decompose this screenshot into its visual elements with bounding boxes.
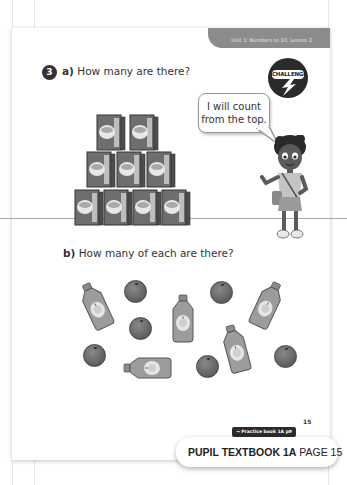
orange (83, 344, 106, 367)
orange (196, 355, 219, 378)
practice-book-link[interactable]: → Practice book 1A p9 (232, 427, 296, 437)
page-number: 15 (303, 418, 311, 425)
bottles-and-oranges (0, 0, 347, 400)
textbook-page-tab: PUPIL TEXTBOOK 1A PAGE 15 (176, 437, 338, 467)
page-label: PAGE 15 (299, 446, 342, 458)
textbook-label: PUPIL TEXTBOOK 1A (188, 446, 296, 458)
orange (124, 280, 147, 303)
orange (129, 317, 152, 340)
orange (274, 345, 297, 368)
orange (210, 281, 233, 304)
